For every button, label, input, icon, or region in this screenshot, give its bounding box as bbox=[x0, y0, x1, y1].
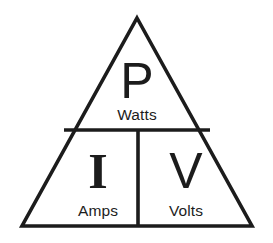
power-triangle-diagram: P Watts I Amps V Volts bbox=[0, 0, 273, 243]
voltage-unit-label: Volts bbox=[147, 203, 225, 219]
current-unit-label: Amps bbox=[60, 203, 136, 219]
power-unit-label: Watts bbox=[97, 107, 177, 123]
current-symbol: I bbox=[62, 146, 134, 196]
power-symbol: P bbox=[97, 56, 177, 106]
voltage-symbol: V bbox=[144, 146, 228, 196]
